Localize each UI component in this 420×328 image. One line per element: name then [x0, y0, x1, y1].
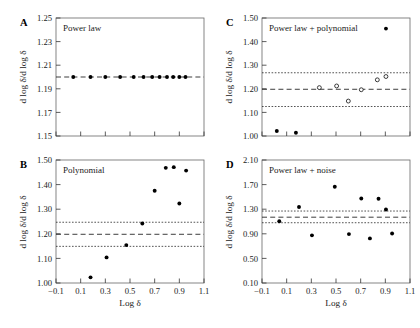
x-tick-label: 0.1 [75, 286, 86, 296]
y-tick-label: 1.50 [37, 155, 52, 165]
data-point [184, 169, 188, 173]
data-point [165, 75, 169, 79]
panel-caption-b: Polynomial [63, 165, 105, 175]
data-point [359, 88, 363, 92]
y-tick-label: 1.19 [37, 84, 52, 94]
y-tick-label: 1.10 [37, 254, 52, 264]
data-point [375, 78, 379, 82]
x-tick-label: 0.3 [306, 286, 317, 296]
y-axis-title: d log δ/d log δ [18, 50, 28, 103]
y-tick-label: 1.25 [37, 13, 52, 23]
data-point [89, 275, 93, 279]
data-point [377, 197, 381, 201]
data-point [384, 208, 388, 212]
panel-letter-b: B [20, 159, 27, 170]
y-tick-label: 1.00 [243, 131, 258, 141]
y-tick-label: 1.30 [243, 60, 258, 70]
y-axis-title: d log δ/d log δ [224, 195, 234, 248]
data-point [390, 232, 394, 236]
data-point [118, 75, 122, 79]
x-tick-label: 1.1 [199, 286, 210, 296]
data-point [132, 75, 136, 79]
data-point [124, 243, 128, 247]
y-tick-label: 0.90 [243, 229, 258, 239]
data-point [71, 75, 75, 79]
y-tick-label: 1.17 [37, 108, 53, 118]
panel-letter-c: C [226, 17, 234, 28]
data-point [359, 196, 363, 200]
panel-caption-c: Power law + polynomial [269, 23, 358, 33]
y-tick-label: 1.30 [37, 204, 52, 214]
x-tick-label: 0.5 [125, 286, 136, 296]
data-point [384, 27, 388, 31]
data-point [89, 75, 93, 79]
data-point [310, 233, 314, 237]
data-point [347, 232, 351, 236]
data-point [317, 86, 321, 90]
x-tick-label: 0.9 [174, 286, 185, 296]
y-tick-label: 1.50 [243, 13, 258, 23]
x-tick-label: −0.1 [254, 286, 270, 296]
data-point [142, 75, 146, 79]
y-tick-label: 1.40 [37, 180, 52, 190]
plot-frame-d [262, 160, 410, 283]
x-tick-label: 0.5 [331, 286, 342, 296]
x-tick-label: 0.1 [281, 286, 292, 296]
y-tick-label: 1.15 [37, 131, 52, 141]
data-point [153, 189, 157, 193]
data-point [164, 166, 168, 170]
y-axis-title: d log δ/d log δ [224, 50, 234, 103]
data-point [177, 202, 181, 206]
y-tick-label: 1.10 [243, 108, 258, 118]
panel-letter-d: D [226, 159, 234, 170]
x-tick-label: 0.9 [380, 286, 391, 296]
data-point [275, 129, 279, 133]
data-point [297, 205, 301, 209]
panel-letter-a: A [20, 17, 28, 28]
data-point [140, 222, 144, 226]
data-point [103, 75, 107, 79]
data-point [150, 75, 154, 79]
data-point [333, 185, 337, 189]
y-tick-label: 1.20 [243, 84, 258, 94]
y-tick-label: 1.21 [37, 60, 52, 70]
y-tick-label: 2.10 [243, 155, 258, 165]
four-panel-scatter-figure: A1.151.171.191.211.231.25d log δ/d log δ… [0, 0, 420, 328]
data-point [384, 75, 388, 79]
data-point [171, 75, 175, 79]
x-axis-title: Log δ [325, 298, 346, 308]
panel-caption-a: Power law [63, 23, 102, 33]
x-axis-title: Log δ [119, 298, 140, 308]
data-point [368, 236, 372, 240]
y-tick-label: 1.20 [37, 229, 52, 239]
panel-caption-d: Power law + noise [269, 165, 336, 175]
x-tick-label: −0.1 [48, 286, 64, 296]
x-tick-label: 0.3 [100, 286, 111, 296]
data-point [177, 75, 181, 79]
x-tick-label: 0.7 [355, 286, 366, 296]
data-point [346, 99, 350, 103]
x-tick-label: 0.7 [149, 286, 160, 296]
data-point [105, 255, 109, 259]
data-point [158, 75, 162, 79]
y-tick-label: 0.50 [243, 254, 258, 264]
data-point [184, 75, 188, 79]
plot-frame-b [56, 160, 204, 283]
y-tick-label: 1.23 [37, 37, 52, 47]
data-point [277, 219, 281, 223]
y-tick-label: 1.70 [243, 180, 258, 190]
y-tick-label: 1.30 [243, 204, 258, 214]
data-point [294, 131, 298, 135]
y-axis-title: d log δ/d log δ [18, 195, 28, 248]
x-tick-label: 1.1 [405, 286, 416, 296]
data-point [335, 84, 339, 88]
y-tick-label: 1.40 [243, 37, 258, 47]
data-point [172, 165, 176, 169]
figure-container: A1.151.171.191.211.231.25d log δ/d log δ… [0, 0, 420, 328]
